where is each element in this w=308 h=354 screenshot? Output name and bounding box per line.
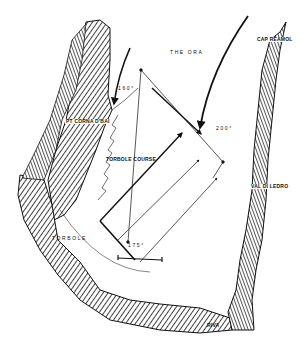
course-label-torbole: TORBOLE COURSE [106,157,156,162]
place-label-pt-corna: PT CORNA D'BAI [65,119,111,124]
place-label-torbole: TORBOLE [52,236,87,241]
bearing-label-160: 160° [118,86,135,91]
east-shore [228,22,286,330]
place-label-cap-reamol: CAP REAMOL [256,37,294,42]
south-shore [18,175,232,333]
west-wind-arrow [114,48,130,104]
bearing-label-175: 175° [128,243,145,248]
place-label-riva: RIVA [207,323,219,328]
lake-garda-course-map [0,0,308,354]
place-label-val-di-ledro: VAL DI LEDRO [250,184,289,189]
bearing-label-200: 200° [216,126,233,131]
wind-label-the-ora: THE ORA [170,50,203,55]
ora-wind-arrow [200,16,248,128]
